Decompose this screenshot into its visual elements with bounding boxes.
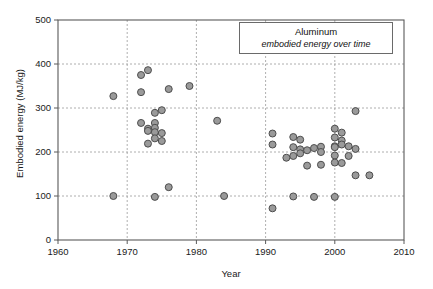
legend-title: Aluminum — [295, 26, 337, 38]
x-tick-label: 1990 — [246, 246, 286, 257]
x-tick-label: 2010 — [384, 246, 424, 257]
legend-subtitle: embodied energy over time — [261, 38, 370, 50]
y-tick-label: 500 — [11, 14, 51, 25]
x-tick-label: 2000 — [315, 246, 355, 257]
x-tick-label: 1960 — [38, 246, 78, 257]
y-tick-label: 0 — [11, 234, 51, 245]
x-tick-label: 1970 — [107, 246, 147, 257]
y-axis-title: Embodied energy (MJ/kg) — [14, 49, 25, 199]
data-points — [110, 67, 373, 212]
legend: Aluminum embodied energy over time — [239, 22, 393, 54]
x-axis-title: Year — [58, 268, 404, 279]
chart-figure: 0100200300400500 19601970198019902000201… — [0, 0, 433, 289]
x-tick-label: 1980 — [176, 246, 216, 257]
